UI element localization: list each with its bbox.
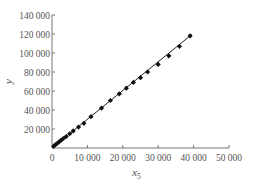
y-axis-title: y (2, 79, 14, 85)
y-tick-label: 60 000 (24, 87, 50, 97)
x-axis-title: x5 (131, 166, 141, 181)
data-point-diamond (138, 75, 143, 80)
x-tick-label: 50 000 (216, 153, 242, 163)
x-tick-label: 20 000 (110, 153, 136, 163)
scatter-chart: 010 00020 00030 00040 00050 00020 00040 … (0, 0, 253, 192)
y-tick-label: 20 000 (24, 125, 50, 135)
x-tick-label: 10 000 (74, 153, 100, 163)
y-tick-label: 140 000 (19, 11, 50, 21)
data-point-diamond (177, 44, 182, 49)
data-point-diamond (156, 62, 161, 67)
y-tick-label: 120 000 (19, 30, 50, 40)
data-point-diamond (145, 69, 150, 74)
y-tick-label: 100 000 (19, 49, 50, 59)
x-tick-label: 0 (50, 153, 55, 163)
y-tick-label: 80 000 (24, 68, 50, 78)
axis-labels: 010 00020 00030 00040 00050 00020 00040 … (2, 11, 242, 182)
x-tick-label: 40 000 (181, 153, 207, 163)
y-tick-label: 40 000 (24, 106, 50, 116)
data-point-diamond (81, 121, 86, 126)
x-tick-label: 30 000 (145, 153, 171, 163)
